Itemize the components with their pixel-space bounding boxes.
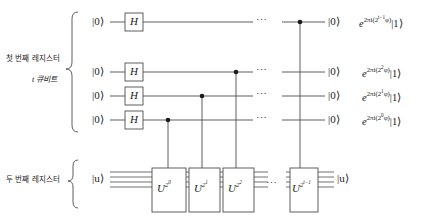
wire-2-output-ket: |0⟩ [328,90,340,101]
h-gate-label-3: H [130,114,138,125]
control-dot-last[interactable] [298,20,303,25]
u-gate-label-0: U20 [157,180,171,194]
control-dot-1[interactable] [200,94,205,99]
quantum-circuit-diagram [0,0,435,220]
first-register-brace [66,12,78,132]
wire-3-input-ket: |0⟩ [92,114,104,125]
wire-2-output-expression: e2πi(21φ)|1⟩ [362,89,401,103]
wire-2-ellipsis: ⋯ [256,89,269,100]
second-register-label-line1: 두 번째 레지스터 [6,176,60,184]
h-gate-label-2: H [130,90,138,101]
wire-1-input-ket: |0⟩ [92,66,104,77]
wire-3-output-expression: e2πi(20φ)|1⟩ [362,113,401,127]
wire-3-output-ket: |0⟩ [328,114,340,125]
control-dot-2[interactable] [234,70,239,75]
control-dot-0[interactable] [166,118,171,123]
h-gate-label-1: H [130,66,138,77]
second-register-ellipsis: ⋯ [266,178,279,189]
h-gate-label-0: H [130,16,138,27]
wire-0-output-expression: e2πi(2t−1φ)|1⟩ [359,15,403,29]
u-gate-label-1: U21 [194,180,208,194]
wire-3-ellipsis: ⋯ [256,113,269,124]
first-register-label-line1: 첫 번째 레지스터 [6,55,60,63]
second-register-input-ket: |u⟩ [92,173,104,184]
second-register-brace [68,160,78,208]
wire-1-output-ket: |0⟩ [328,66,340,77]
first-register-label-line2: t 큐비트 [32,69,57,85]
wire-1-ellipsis: ⋯ [256,65,269,76]
wire-0-output-ket: |0⟩ [328,16,340,27]
wire-0-input-ket: |0⟩ [92,16,104,27]
second-register-output-ket: |u⟩ [337,173,349,184]
wire-0-ellipsis: ⋯ [256,15,269,26]
u-gate-label-2: U22 [228,180,242,194]
wire-2-input-ket: |0⟩ [92,90,104,101]
u-gate-label-last: U2t−1 [292,180,311,194]
wire-1-output-expression: e2πi(22φ)|1⟩ [362,65,401,79]
